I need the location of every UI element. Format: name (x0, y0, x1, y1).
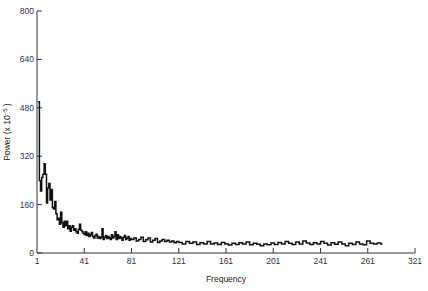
y-tick-label: 160 (20, 200, 34, 210)
y-axis: 0160320480640800 Power (x 10−5 ) (2, 6, 42, 258)
x-axis-ticks: 14181121161201241261321 (35, 248, 423, 266)
y-tick-label: 640 (20, 54, 34, 64)
y-axis-title: Power (x 10−5 ) (2, 103, 12, 161)
y-tick-label: 320 (20, 151, 34, 161)
power-spectrum-line (38, 102, 382, 246)
x-tick-label: 201 (266, 256, 280, 266)
x-tick-label: 121 (172, 256, 186, 266)
x-tick-label: 81 (127, 256, 137, 266)
y-tick-label: 800 (20, 6, 34, 16)
y-tick-label: 480 (20, 103, 34, 113)
power-spectrum-chart: 0160320480640800 Power (x 10−5 ) 1418112… (0, 0, 428, 291)
x-tick-label: 1 (35, 256, 40, 266)
x-axis: 14181121161201241261321 Frequency (35, 248, 423, 284)
x-axis-title: Frequency (206, 274, 247, 284)
x-tick-label: 241 (313, 256, 327, 266)
y-tick-label: 0 (29, 248, 34, 258)
x-tick-label: 41 (80, 256, 90, 266)
x-tick-label: 261 (361, 256, 375, 266)
x-tick-label: 161 (219, 256, 233, 266)
x-tick-label: 321 (408, 256, 422, 266)
